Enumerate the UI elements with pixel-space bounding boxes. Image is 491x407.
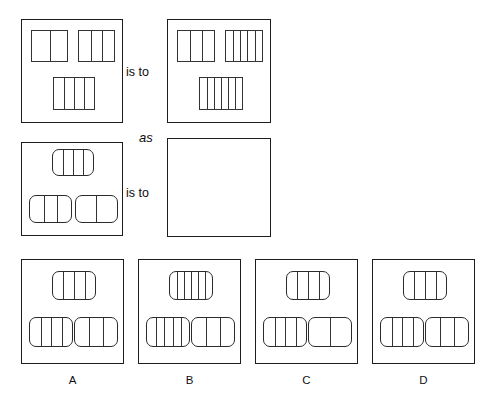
divider-line bbox=[240, 31, 241, 60]
analogy-answer-blank-panel bbox=[167, 138, 271, 237]
divider-line bbox=[164, 318, 165, 346]
divider-line bbox=[247, 31, 248, 60]
option-panel-d[interactable] bbox=[372, 259, 475, 364]
figure-dividers bbox=[404, 272, 446, 299]
figure-dividers bbox=[178, 31, 213, 60]
divider-line bbox=[102, 31, 103, 60]
figure-dividers bbox=[30, 318, 72, 346]
divider-line bbox=[103, 318, 104, 346]
divider-line bbox=[96, 196, 97, 222]
figure-dividers bbox=[192, 318, 234, 346]
option-label-d: D bbox=[372, 375, 475, 387]
divider-line bbox=[285, 318, 286, 346]
figure-bottom-right bbox=[74, 317, 118, 347]
figure-bottom-left bbox=[380, 317, 424, 347]
figure-top-left bbox=[177, 30, 214, 61]
figure-dividers bbox=[426, 318, 468, 346]
figure-dividers bbox=[226, 31, 261, 60]
divider-line bbox=[181, 318, 182, 346]
figure-bottom-right bbox=[425, 317, 469, 347]
divider-line bbox=[220, 318, 221, 346]
divider-line bbox=[425, 272, 426, 299]
figure-dividers bbox=[287, 272, 329, 299]
figure-dividers bbox=[53, 272, 95, 299]
divider-line bbox=[440, 318, 441, 346]
divider-line bbox=[414, 272, 415, 299]
divider-line bbox=[275, 318, 276, 346]
divider-line bbox=[91, 31, 92, 60]
divider-line bbox=[392, 318, 393, 346]
figure-top-center bbox=[169, 271, 213, 300]
figure-dividers bbox=[200, 78, 242, 109]
divider-line bbox=[235, 78, 236, 109]
divider-line bbox=[74, 272, 75, 299]
divider-line bbox=[255, 31, 256, 60]
analogy-panel-a2 bbox=[167, 19, 271, 123]
divider-line bbox=[89, 318, 90, 346]
divider-line bbox=[63, 272, 64, 299]
divider-line bbox=[436, 272, 437, 299]
divider-line bbox=[41, 318, 42, 346]
figure-dividers bbox=[32, 31, 67, 60]
divider-line bbox=[202, 31, 203, 60]
figure-top-left bbox=[31, 30, 68, 61]
divider-line bbox=[64, 78, 65, 109]
divider-line bbox=[228, 78, 229, 109]
figure-dividers bbox=[147, 318, 189, 346]
connector-is-to-first: is to bbox=[126, 66, 149, 79]
divider-line bbox=[85, 272, 86, 299]
divider-line bbox=[221, 78, 222, 109]
connector-as: as bbox=[139, 131, 153, 144]
figure-top-center bbox=[52, 149, 95, 176]
divider-line bbox=[198, 272, 199, 299]
divider-line bbox=[205, 272, 206, 299]
option-label-b: B bbox=[138, 375, 241, 387]
divider-line bbox=[233, 31, 234, 60]
connector-is-to-second: is to bbox=[126, 187, 149, 200]
divider-line bbox=[308, 272, 309, 299]
figure-dividers bbox=[53, 150, 94, 175]
figure-bottom-right bbox=[75, 195, 118, 223]
analogy-puzzle-canvas: is to as is to A B C D bbox=[0, 0, 491, 407]
divider-line bbox=[84, 78, 85, 109]
figure-dividers bbox=[309, 318, 351, 346]
figure-top-center bbox=[52, 271, 96, 300]
figure-dividers bbox=[75, 318, 117, 346]
figure-bottom-right bbox=[308, 317, 352, 347]
figure-dividers bbox=[54, 78, 95, 109]
figure-top-right bbox=[78, 30, 115, 61]
figure-bottom-center bbox=[199, 77, 243, 110]
divider-line bbox=[319, 272, 320, 299]
option-panel-a[interactable] bbox=[21, 259, 124, 364]
option-label-c: C bbox=[255, 375, 358, 387]
divider-line bbox=[214, 78, 215, 109]
figure-dividers bbox=[264, 318, 306, 346]
figure-top-center bbox=[403, 271, 447, 300]
divider-line bbox=[156, 318, 157, 346]
figure-dividers bbox=[381, 318, 423, 346]
divider-line bbox=[206, 318, 207, 346]
analogy-panel-b1 bbox=[21, 142, 123, 236]
divider-line bbox=[191, 272, 192, 299]
divider-line bbox=[57, 196, 58, 222]
divider-line bbox=[190, 31, 191, 60]
divider-line bbox=[73, 150, 74, 175]
divider-line bbox=[50, 31, 51, 60]
divider-line bbox=[296, 318, 297, 346]
divider-line bbox=[44, 196, 45, 222]
divider-line bbox=[62, 318, 63, 346]
option-panel-c[interactable] bbox=[255, 259, 358, 364]
figure-top-right bbox=[225, 30, 262, 61]
divider-line bbox=[413, 318, 414, 346]
divider-line bbox=[402, 318, 403, 346]
divider-line bbox=[74, 78, 75, 109]
option-panel-b[interactable] bbox=[138, 259, 241, 364]
figure-dividers bbox=[79, 31, 114, 60]
divider-line bbox=[454, 318, 455, 346]
divider-line bbox=[184, 272, 185, 299]
figure-bottom-center bbox=[53, 77, 96, 110]
divider-line bbox=[63, 150, 64, 175]
analogy-panel-a1 bbox=[21, 19, 123, 123]
figure-dividers bbox=[170, 272, 212, 299]
divider-line bbox=[83, 150, 84, 175]
